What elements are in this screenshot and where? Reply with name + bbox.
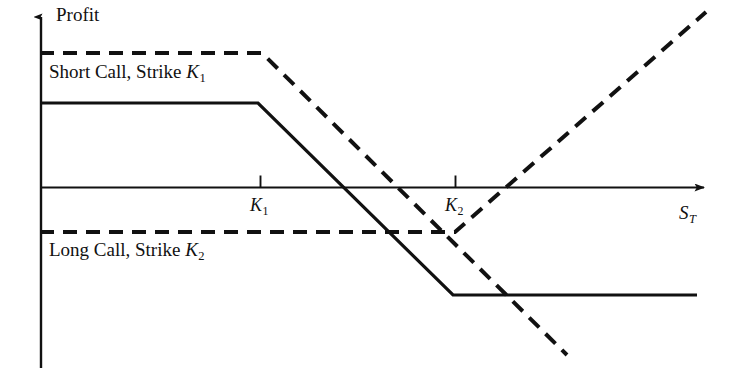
x-axis-label: ST (679, 203, 696, 222)
long-call-label-text: Long Call, Strike (49, 239, 185, 260)
x-tick-label-k2-base: K (445, 195, 457, 215)
x-tick-label-k2: K2 (445, 196, 463, 214)
profit-diagram-figure: Profit ST Short Call, Strike K1 Long Cal… (0, 0, 738, 378)
x-tick-label-k2-sub: 2 (457, 204, 463, 218)
x-axis-label-base: S (679, 202, 689, 223)
short-call-label-symbol: K (186, 61, 199, 82)
long-call-series-label: Long Call, Strike K2 (49, 240, 205, 259)
x-tick-label-k1-sub: 1 (262, 204, 268, 218)
short-call-series-label: Short Call, Strike K1 (49, 62, 206, 81)
y-axis-label-text: Profit (56, 4, 99, 25)
short-call-label-text: Short Call, Strike (49, 61, 186, 82)
long-call-label-subscript: 2 (198, 249, 205, 263)
x-tick-label-k1-base: K (250, 195, 262, 215)
series-short-call-line (40, 53, 567, 355)
x-axis-label-sub: T (689, 212, 696, 226)
long-call-label-symbol: K (185, 239, 198, 260)
series-long-call-line (40, 12, 706, 232)
chart-canvas (0, 0, 738, 378)
x-tick-label-k1: K1 (250, 196, 268, 214)
short-call-label-subscript: 1 (199, 71, 206, 85)
series-spread-line (40, 103, 697, 295)
y-axis-label: Profit (56, 5, 99, 24)
